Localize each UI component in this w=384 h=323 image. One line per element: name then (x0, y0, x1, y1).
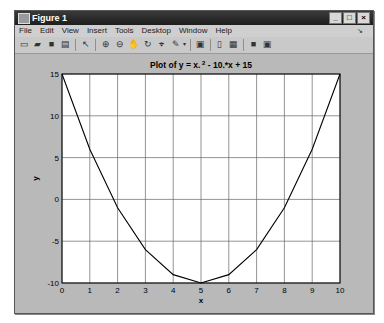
x-tick-label: 8 (282, 286, 287, 295)
y-tick-label: 15 (50, 70, 59, 79)
x-tick-label: 4 (171, 286, 176, 295)
x-tick-label: 3 (143, 286, 148, 295)
plot-axes[interactable]: 012345678910-10-5051015xyPlot of y = x. … (0, 0, 384, 323)
x-tick-label: 9 (310, 286, 315, 295)
chart-title: Plot of y = x. 2 - 10.*x + 15 (150, 60, 252, 70)
x-tick-label: 1 (88, 286, 93, 295)
y-tick-label: -10 (47, 279, 59, 288)
x-tick-label: 2 (115, 286, 120, 295)
x-tick-label: 5 (199, 286, 204, 295)
x-tick-label: 10 (336, 286, 345, 295)
y-tick-label: 5 (55, 154, 60, 163)
y-tick-label: 0 (55, 195, 60, 204)
y-axis-label: y (31, 176, 40, 181)
x-tick-label: 6 (227, 286, 232, 295)
y-tick-label: -5 (52, 237, 60, 246)
x-axis-label: x (199, 296, 204, 305)
x-tick-label: 7 (254, 286, 259, 295)
x-tick-label: 0 (60, 286, 65, 295)
y-tick-label: 10 (50, 112, 59, 121)
